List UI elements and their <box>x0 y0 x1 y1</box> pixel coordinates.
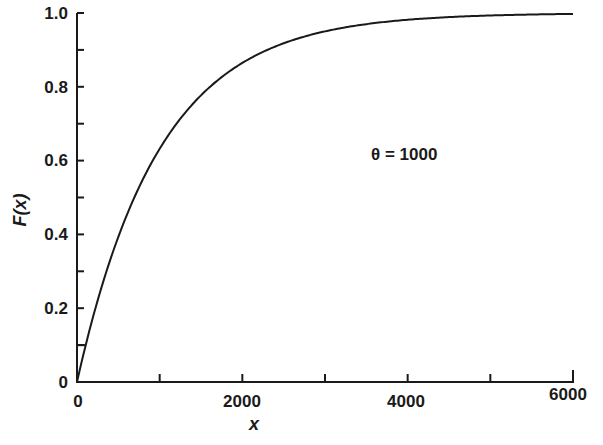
cdf-curve <box>77 14 573 382</box>
y-tick-label-0: 0 <box>59 373 68 392</box>
chart: 0 0.2 0.4 0.6 0.8 1.0 0 2000 4000 6000 x… <box>0 0 603 445</box>
chart-svg: 0 0.2 0.4 0.6 0.8 1.0 0 2000 4000 6000 x… <box>0 0 603 445</box>
y-tick-label-1.0: 1.0 <box>44 4 68 23</box>
x-ticks <box>160 374 491 382</box>
y-tick-label-0.4: 0.4 <box>44 225 68 244</box>
y-tick-label-0.6: 0.6 <box>44 151 68 170</box>
axes <box>76 13 574 382</box>
x-axis-title: x <box>248 414 260 434</box>
y-ticks <box>77 50 84 345</box>
x-tick-labels: 0 2000 4000 6000 <box>73 385 587 411</box>
y-axis-title: F(x) <box>10 194 30 227</box>
y-tick-label-0.8: 0.8 <box>44 78 68 97</box>
y-tick-label-0.2: 0.2 <box>44 299 68 318</box>
y-tick-labels: 0 0.2 0.4 0.6 0.8 1.0 <box>44 4 68 392</box>
theta-annotation: θ = 1000 <box>371 145 437 164</box>
x-tick-label-0: 0 <box>73 392 82 411</box>
x-tick-label-4000: 4000 <box>387 392 425 411</box>
x-tick-label-2000: 2000 <box>223 392 261 411</box>
x-tick-label-6000: 6000 <box>549 385 587 404</box>
